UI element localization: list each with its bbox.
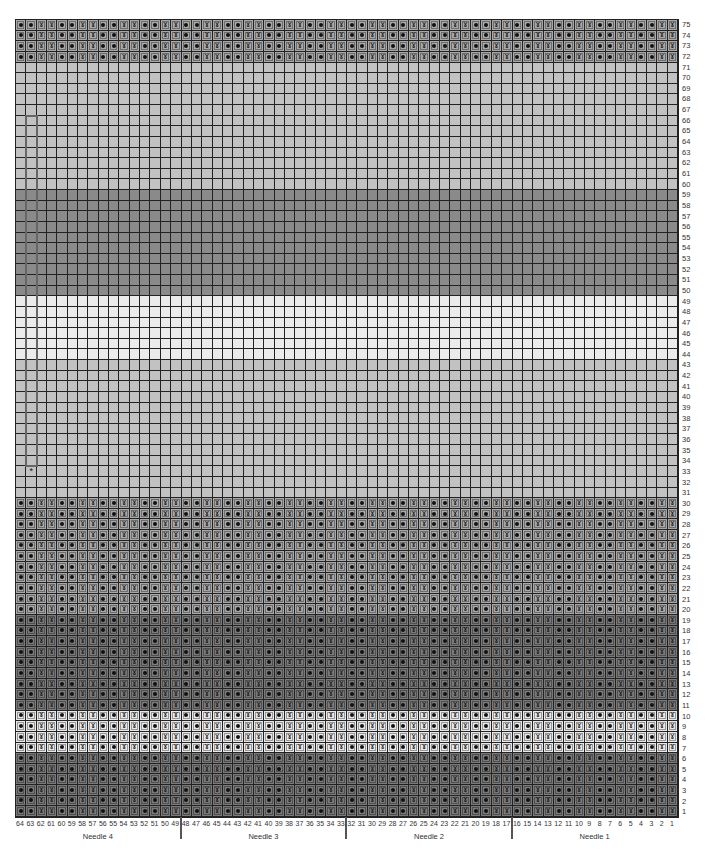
chart-cell: [109, 190, 119, 201]
twisted-stitch-icon: ɤ: [535, 722, 540, 730]
chart-cell: ɤ: [213, 583, 223, 594]
chart-cell: ɤ: [130, 721, 140, 732]
chart-cell: [368, 63, 378, 74]
chart-cell: [275, 360, 285, 371]
twisted-stitch-icon: ɤ: [629, 743, 634, 751]
purl-dot-icon: [443, 586, 447, 590]
purl-dot-icon: [391, 692, 395, 696]
chart-cell: [647, 636, 657, 647]
chart-cell: [440, 126, 450, 137]
chart-cell: [78, 371, 88, 382]
chart-cell: [419, 286, 429, 297]
purl-dot-icon: [484, 628, 488, 632]
purl-dot-icon: [19, 788, 23, 792]
chart-cell: [202, 105, 212, 116]
purl-dot-icon: [277, 23, 281, 27]
chart-cell: [461, 264, 471, 275]
chart-cell: [182, 488, 192, 499]
chart-cell: [150, 679, 160, 690]
chart-cell: [316, 615, 326, 626]
chart-cell: ɤ: [47, 753, 57, 764]
chart-cell: [57, 264, 67, 275]
chart-cell: [347, 796, 357, 807]
chart-cell: [161, 264, 171, 275]
chart-cell: [399, 551, 409, 562]
chart-cell: [471, 318, 481, 329]
chart-cell: [47, 328, 57, 339]
chart-cell: [233, 148, 243, 159]
twisted-stitch-icon: ɤ: [618, 21, 623, 29]
chart-cell: ɤ: [461, 20, 471, 31]
chart-cell: [657, 424, 667, 435]
chart-cell: [564, 562, 574, 573]
purl-dot-icon: [598, 745, 602, 749]
purl-dot-icon: [29, 703, 33, 707]
twisted-stitch-icon: ɤ: [215, 680, 220, 688]
purl-dot-icon: [526, 533, 530, 537]
chart-cell: [150, 434, 160, 445]
chart-cell: [109, 445, 119, 456]
chart-cell: [357, 318, 367, 329]
chart-cell: [254, 264, 264, 275]
chart-cell: [523, 594, 533, 605]
chart-cell: [150, 647, 160, 658]
chart-cell: [26, 700, 36, 711]
chart-cell: [182, 179, 192, 190]
chart-cell: [182, 84, 192, 95]
twisted-stitch-icon: ɤ: [80, 42, 85, 50]
chart-cell: [78, 190, 88, 201]
chart-cell: [264, 626, 274, 637]
chart-cell: [295, 403, 305, 414]
purl-dot-icon: [567, 671, 571, 675]
chart-cell: [161, 477, 171, 488]
twisted-stitch-icon: ɤ: [49, 754, 54, 762]
purl-dot-icon: [112, 798, 116, 802]
purl-dot-icon: [360, 607, 364, 611]
twisted-stitch-icon: ɤ: [132, 690, 137, 698]
chart-cell: ɤ: [378, 551, 388, 562]
chart-cell: [161, 190, 171, 201]
chart-cell: [233, 339, 243, 350]
twisted-stitch-icon: ɤ: [629, 573, 634, 581]
chart-cell: [192, 594, 202, 605]
chart-cell: [575, 488, 585, 499]
twisted-stitch-icon: ɤ: [670, 786, 675, 794]
purl-dot-icon: [226, 554, 230, 558]
chart-cell: [109, 52, 119, 63]
chart-cell: [244, 403, 254, 414]
twisted-stitch-icon: ɤ: [287, 754, 292, 762]
chart-cell: [554, 403, 564, 414]
chart-cell: [564, 615, 574, 626]
chart-cell: [657, 445, 667, 456]
chart-cell: ɤ: [616, 604, 626, 615]
chart-cell: ɤ: [88, 31, 98, 42]
twisted-stitch-icon: ɤ: [122, 680, 127, 688]
chart-cell: [616, 318, 626, 329]
chart-cell: [575, 116, 585, 127]
twisted-stitch-icon: ɤ: [287, 541, 292, 549]
twisted-stitch-icon: ɤ: [463, 42, 468, 50]
twisted-stitch-icon: ɤ: [329, 669, 334, 677]
chart-cell: [575, 190, 585, 201]
purl-dot-icon: [526, 798, 530, 802]
chart-cell: [554, 488, 564, 499]
purl-dot-icon: [19, 639, 23, 643]
chart-cell: [668, 371, 678, 382]
purl-dot-icon: [267, 798, 271, 802]
chart-cell: [481, 498, 491, 509]
purl-dot-icon: [267, 650, 271, 654]
chart-cell: [481, 222, 491, 233]
twisted-stitch-icon: ɤ: [215, 754, 220, 762]
chart-cell: ɤ: [502, 679, 512, 690]
twisted-stitch-icon: ɤ: [504, 42, 509, 50]
chart-cell: [606, 658, 616, 669]
chart-cell: [295, 233, 305, 244]
purl-dot-icon: [153, 713, 157, 717]
chart-cell: [585, 63, 595, 74]
chart-cell: [150, 541, 160, 552]
row-number-label: 19: [682, 616, 702, 625]
chart-cell: [182, 668, 192, 679]
chart-cell: [492, 360, 502, 371]
chart-cell: [192, 498, 202, 509]
chart-cell: [150, 105, 160, 116]
